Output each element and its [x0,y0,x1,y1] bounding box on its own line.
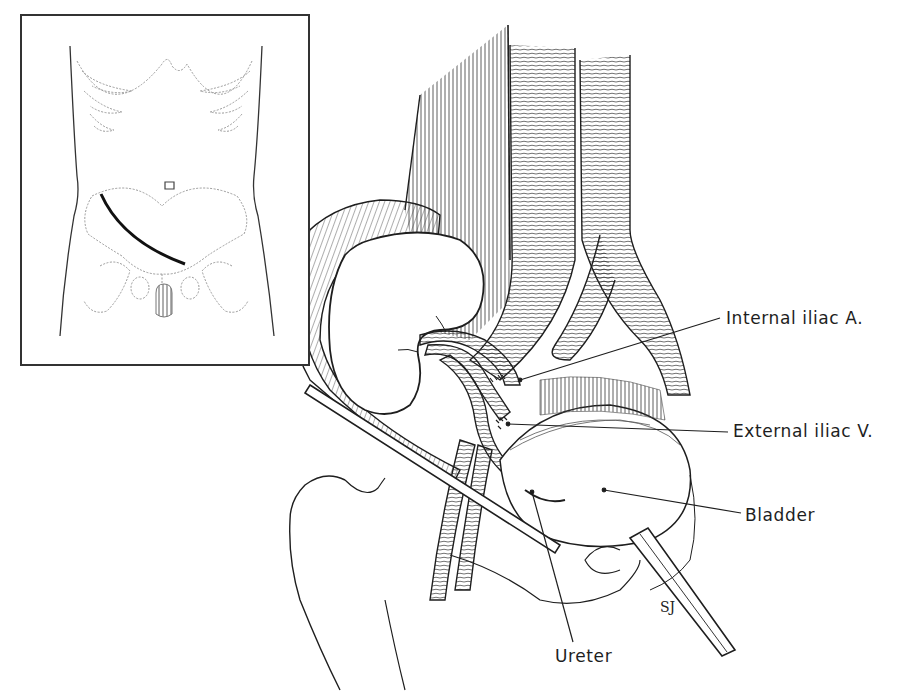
pelvic-bone [450,555,640,603]
inset-incision-diagram [20,14,310,366]
label-bladder: Bladder [745,505,815,525]
femur-outline [290,476,345,690]
kidney [329,233,484,415]
artist-signature: SJ [660,599,675,615]
label-ureter: Ureter [555,646,612,666]
label-internal-iliac-artery: Internal iliac A. [726,308,863,328]
leader-internal-iliac [520,318,720,380]
umbilicus-icon [165,182,174,189]
main-illustration: SJ [290,25,735,690]
label-external-iliac-vein: External iliac V. [733,421,873,441]
torso-outline [22,16,308,364]
incision-line [101,194,185,264]
